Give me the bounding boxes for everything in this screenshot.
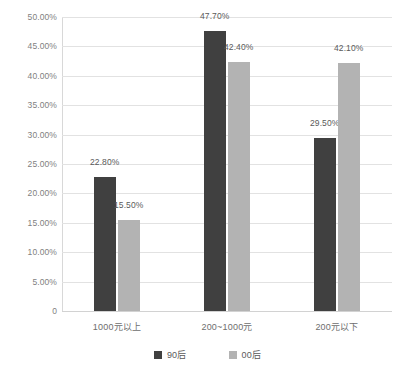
bar-group: 29.50%42.10% — [314, 17, 360, 311]
y-axis-tick-label: 15.00% — [3, 218, 57, 228]
legend-label: 00后 — [242, 348, 262, 361]
legend-item[interactable]: 00后 — [229, 348, 262, 361]
x-axis-tick-label: 200元以下 — [277, 320, 397, 333]
y-axis-tick-label: 50.00% — [3, 12, 57, 22]
x-axis-tick-label: 1000元以上 — [57, 320, 177, 333]
bar-series-90hou[interactable] — [94, 177, 116, 311]
bar-chart: 05.00%10.00%15.00%20.00%25.00%30.00%35.0… — [0, 0, 415, 371]
y-axis-tick-label: 45.00% — [3, 41, 57, 51]
y-axis-tick-label: 0 — [3, 306, 57, 316]
y-axis-tick-label: 10.00% — [3, 247, 57, 257]
bar-series-00hou[interactable] — [338, 63, 360, 311]
bar-value-label: 42.40% — [224, 42, 253, 52]
y-axis-tick-labels: 05.00%10.00%15.00%20.00%25.00%30.00%35.0… — [0, 17, 57, 311]
y-axis-tick-label: 25.00% — [3, 159, 57, 169]
bar-value-label: 15.50% — [114, 200, 143, 210]
gridline — [62, 311, 392, 312]
y-axis-tick-label: 5.00% — [3, 277, 57, 287]
chart-legend: 90后00后 — [0, 348, 415, 361]
plot-area: 22.80%15.50%47.70%42.40%29.50%42.10% — [62, 17, 392, 311]
bar-value-label: 22.80% — [90, 157, 119, 167]
y-axis-tick-label: 30.00% — [3, 130, 57, 140]
bar-series-00hou[interactable] — [228, 62, 250, 311]
bar-series-00hou[interactable] — [118, 220, 140, 311]
y-axis-tick-label: 40.00% — [3, 71, 57, 81]
bar-group: 22.80%15.50% — [94, 17, 140, 311]
y-axis-tick-label: 20.00% — [3, 188, 57, 198]
legend-swatch-icon — [229, 351, 237, 359]
bar-value-label: 42.10% — [334, 43, 363, 53]
legend-item[interactable]: 90后 — [154, 348, 187, 361]
legend-swatch-icon — [154, 351, 162, 359]
bar-series-90hou[interactable] — [204, 31, 226, 311]
bar-group: 47.70%42.40% — [204, 17, 250, 311]
bar-series-90hou[interactable] — [314, 138, 336, 311]
bar-value-label: 29.50% — [310, 118, 339, 128]
bar-value-label: 47.70% — [200, 11, 229, 21]
x-axis-tick-label: 200~1000元 — [167, 320, 287, 333]
legend-label: 90后 — [167, 348, 187, 361]
y-axis-tick-label: 35.00% — [3, 100, 57, 110]
